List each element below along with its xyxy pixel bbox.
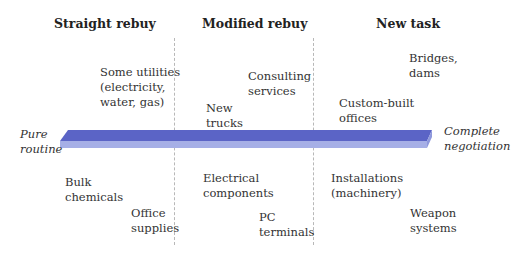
item-installations-machinery: Installations (machinery) (331, 171, 403, 201)
bar-front-face (60, 141, 427, 148)
item-electrical-components: Electrical components (203, 171, 274, 201)
item-office-supplies: Office supplies (131, 206, 179, 236)
item-bulk-chemicals: Bulk chemicals (65, 175, 123, 205)
item-consulting-services: Consulting services (248, 69, 311, 99)
item-some-utilities: Some utilities (electricity, water, gas) (100, 65, 180, 110)
bar-top-face (60, 130, 432, 141)
item-new-trucks: New trucks (206, 101, 243, 131)
item-pc-terminals: PC terminals (259, 210, 314, 240)
axis-label-pure-routine: Pure routine (20, 127, 62, 157)
item-bridges-dams: Bridges, dams (409, 51, 458, 81)
item-weapon-systems: Weapon systems (410, 206, 457, 236)
axis-label-complete-negotiation: Complete negotiation (444, 124, 510, 154)
item-custom-built-offices: Custom-built offices (339, 96, 414, 126)
